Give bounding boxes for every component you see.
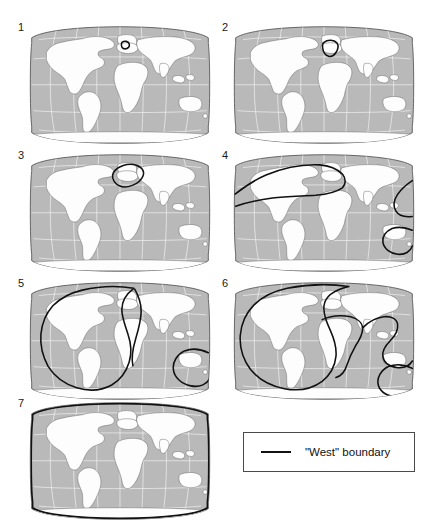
figure-map-series: 1 (0, 0, 431, 520)
legend-label: "West" boundary (305, 446, 390, 458)
world-map (28, 400, 212, 520)
panel-number-label: 4 (222, 150, 228, 161)
map-panel-2: 2 (218, 20, 418, 148)
legend-box: "West" boundary (243, 432, 415, 472)
panel-number-label: 1 (18, 22, 24, 33)
world-map (28, 280, 212, 402)
world-map (232, 280, 416, 402)
world-map (232, 24, 416, 146)
legend-content: "West" boundary (244, 433, 414, 471)
legend-line-swatch (261, 451, 291, 453)
map-panel-7: 7 (14, 396, 214, 520)
world-map (28, 24, 212, 146)
panel-number-label: 7 (18, 398, 24, 409)
world-map (232, 152, 416, 274)
map-panel-3: 3 (14, 148, 214, 276)
map-panel-4: 4 (218, 148, 418, 276)
panel-number-label: 6 (222, 278, 228, 289)
map-panel-6: 6 (218, 276, 418, 404)
world-map (28, 152, 212, 274)
panel-number-label: 3 (18, 150, 24, 161)
panel-number-label: 2 (222, 22, 228, 33)
map-panel-1: 1 (14, 20, 214, 148)
map-panel-5: 5 (14, 276, 214, 404)
panel-number-label: 5 (18, 278, 24, 289)
